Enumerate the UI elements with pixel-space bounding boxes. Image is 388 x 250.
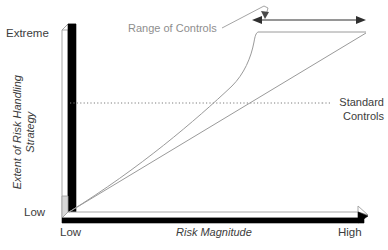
y-axis-max-label: Extreme (6, 27, 49, 40)
y-axis-title: Extent of Risk HandlingStrategy (11, 70, 37, 194)
risk-handling-strategy-diagram: Extreme Low Low High Extent of Risk Hand… (0, 0, 388, 250)
standard-controls-label-line1: Standard (339, 96, 384, 108)
y-axis-min-label: Low (24, 206, 45, 219)
x-axis-arrow-icon (62, 206, 368, 223)
diagram-canvas (0, 0, 388, 250)
y-axis-arrow-icon (62, 24, 76, 218)
standard-controls-label: StandardControls (300, 96, 384, 124)
x-axis-title: Risk Magnitude (176, 226, 252, 239)
y-axis-title-line2: Strategy (24, 112, 36, 153)
double-headed-arrow-icon (252, 16, 366, 24)
range-of-controls-label: Range of Controls (128, 22, 217, 35)
x-axis-min-label: Low (60, 226, 81, 239)
standard-controls-label-line2: Controls (343, 110, 384, 122)
y-axis-title-line1: Extent of Risk Handling (11, 75, 23, 189)
x-axis-max-label: High (338, 226, 362, 239)
